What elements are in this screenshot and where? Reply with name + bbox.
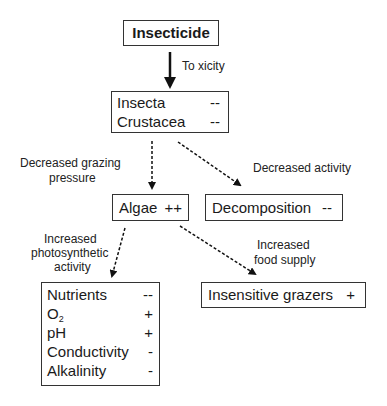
row-name: pH: [47, 323, 66, 342]
food-label-1: Increased: [257, 238, 310, 253]
algae-name: Algae: [119, 195, 157, 220]
decomposition-name: Decomposition: [212, 195, 311, 220]
decomposition-row: Decomposition --: [212, 195, 332, 220]
decomposition-arrow: [178, 142, 240, 185]
row-name: Crustacea: [117, 112, 185, 131]
row-effect: +: [144, 323, 153, 342]
wq-row: Nutrients --: [47, 285, 153, 304]
algae-effect: ++: [164, 195, 182, 220]
photo-label-3: activity: [54, 260, 91, 275]
algae-row: Algae ++: [119, 195, 182, 220]
grazers-row: Insensitive grazers +: [208, 283, 355, 307]
decomposition-effect: --: [322, 195, 332, 220]
wq-row: Alkalinity -: [47, 361, 153, 380]
wq-row: O2 +: [47, 304, 153, 323]
row-name: Insecta: [117, 93, 165, 112]
grazing-label-2: pressure: [49, 171, 96, 186]
photo-label-1: Increased: [44, 232, 97, 247]
grazers-node: Insensitive grazers +: [201, 282, 366, 308]
row-name: O2: [47, 304, 64, 323]
row-effect: --: [210, 93, 220, 112]
row-name: Nutrients: [47, 285, 107, 304]
decreased-activity-label: Decreased activity: [253, 161, 351, 176]
row-name: Conductivity: [47, 342, 129, 361]
grazing-label-1: Decreased grazing: [20, 156, 121, 171]
food-label-2: food supply: [254, 253, 315, 268]
photosynthetic-arrow: [112, 228, 125, 276]
food-supply-arrow: [180, 226, 255, 274]
insects-row: Crustacea --: [117, 112, 220, 131]
insects-node: Insecta -- Crustacea --: [111, 91, 229, 133]
insecticide-node: Insecticide: [123, 20, 219, 46]
row-effect: -: [148, 361, 153, 380]
water-quality-node: Nutrients -- O2 + pH + Conductivity - Al…: [41, 282, 160, 386]
row-name: Alkalinity: [47, 361, 106, 380]
row-effect: -: [148, 342, 153, 361]
row-effect: --: [143, 285, 153, 304]
grazers-effect: +: [346, 283, 355, 307]
wq-row: Conductivity -: [47, 342, 153, 361]
decomposition-node: Decomposition --: [205, 194, 343, 221]
toxicity-label: To xicity: [182, 59, 225, 74]
algae-node: Algae ++: [112, 194, 189, 221]
wq-row: pH +: [47, 323, 153, 342]
insects-row: Insecta --: [117, 93, 220, 112]
photo-label-2: photosynthetic: [31, 246, 108, 261]
row-effect: --: [210, 112, 220, 131]
grazers-name: Insensitive grazers: [208, 283, 333, 307]
row-effect: +: [144, 304, 153, 323]
insecticide-label: Insecticide: [132, 24, 210, 41]
